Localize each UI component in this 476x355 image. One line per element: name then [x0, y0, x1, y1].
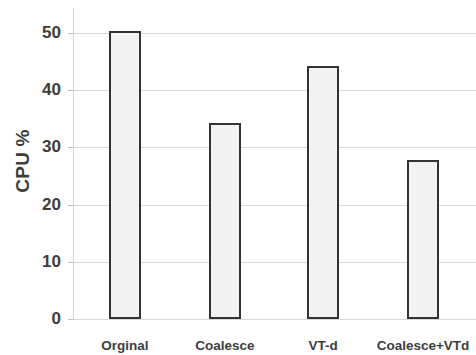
- bar: [407, 160, 439, 319]
- y-axis-tick-label: 20: [1, 196, 61, 213]
- y-axis-tick-label: 0: [1, 310, 61, 327]
- y-axis-tick: [68, 90, 74, 91]
- gridline: [73, 319, 476, 320]
- y-axis-tick: [68, 205, 74, 206]
- bar: [209, 123, 241, 319]
- y-axis-tick-label: 10: [1, 253, 61, 270]
- y-axis-tick-label: 30: [1, 138, 61, 155]
- y-axis-tick: [68, 319, 74, 320]
- y-axis-tick: [68, 33, 74, 34]
- y-axis-title: CPU %: [12, 86, 34, 236]
- plot-area: [73, 8, 476, 319]
- bar: [109, 31, 141, 319]
- bar-chart: CPU % 01020304050 OrginalCoalesceVT-dCoa…: [0, 0, 476, 355]
- y-axis-tick-label: 40: [1, 81, 61, 98]
- y-axis-tick: [68, 147, 74, 148]
- y-axis-line: [73, 8, 74, 319]
- x-axis-tick-label: Coalesce+VTd: [343, 338, 476, 353]
- y-axis-tick-label: 50: [1, 24, 61, 41]
- bar: [307, 66, 339, 319]
- y-axis-tick: [68, 262, 74, 263]
